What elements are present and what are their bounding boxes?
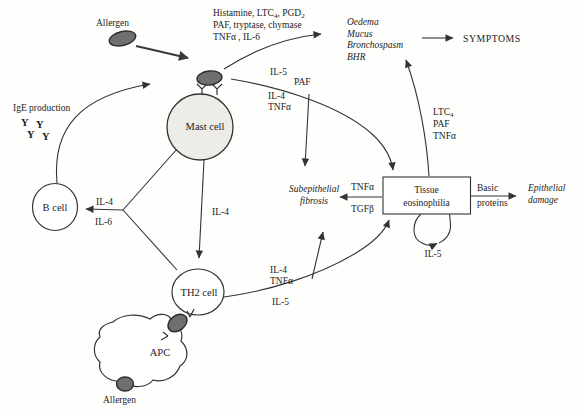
tissue-box-label-line2: eosinophilia	[403, 198, 450, 208]
th2-il5-label: IL-5	[272, 297, 289, 307]
bcell-il4-label: IL-4	[96, 197, 113, 207]
mast-eos-paf-label: PAF	[294, 77, 311, 87]
tissue-eosinophilia-box	[383, 177, 471, 214]
mast-mediators-line1: Histamine, LTC4, PGD2	[213, 8, 305, 20]
apc-label: APC	[150, 347, 170, 358]
acute-effect-bronchospasm: Bronchospasm	[347, 40, 403, 50]
fibrosis-tnfa-label: TNFα	[351, 182, 374, 192]
fibrosis-label-line1: Subepithelial	[289, 184, 339, 194]
th2-to-eosinophilia-arrow	[224, 220, 389, 297]
ige-production-label: IgE production	[13, 103, 71, 113]
acute-effect-mucus: Mucus	[346, 29, 373, 39]
th2-il4-label: IL-4	[270, 265, 287, 275]
junction-to-bcell-arrow	[86, 209, 123, 210]
acute-effect-oedema: Oedema	[347, 17, 379, 27]
tissue-box-label-line1: Tissue	[414, 185, 438, 195]
mast-branch-to-fibrosis-arrow	[305, 94, 309, 166]
th2-tnfa-label: TNFα	[270, 276, 293, 286]
bcell-to-mastcell-arrow	[56, 84, 150, 183]
basic-proteins-line2: proteins	[477, 198, 508, 208]
ige-antibody-icon: Y	[36, 119, 44, 130]
il5-loop-label: IL-5	[425, 249, 442, 259]
allergen-on-mastcell-icon	[196, 70, 222, 87]
mastcell-to-th2-arrow	[199, 160, 204, 258]
mast-eos-il4-label: IL-4	[268, 91, 285, 101]
junction-to-th2-line	[123, 210, 177, 270]
symptoms-label: SYMPTOMS	[463, 33, 521, 44]
epithelial-damage-line2: damage	[528, 195, 558, 205]
mast-mediators-line3: TNFα , IL-6	[213, 32, 260, 42]
asthma-pathway-diagram: Allergen IgE production Y Y Y Y Mast cel…	[0, 0, 581, 413]
ige-antibody-icon: Y	[21, 117, 29, 128]
eosinophilia-to-bhr-arrow	[406, 60, 429, 176]
mast-mediators-line2: PAF, tryptase, chymase	[213, 20, 302, 30]
allergen-particle-icon	[108, 28, 138, 48]
mast-th2-il4-label: IL-4	[212, 207, 229, 217]
mast-cell-label: Mast cell	[186, 121, 225, 132]
acute-effect-bhr: BHR	[347, 52, 366, 62]
epithelial-damage-line1: Epithelial	[527, 183, 566, 193]
basic-proteins-line1: Basic	[477, 183, 498, 193]
fibrosis-label-line2: fibrosis	[300, 196, 328, 206]
ige-antibody-icon: Y	[27, 129, 35, 140]
mastcell-to-junction-line	[123, 149, 177, 210]
b-cell-label: B cell	[43, 202, 68, 213]
fibrosis-tgfb-label: TGFβ	[351, 204, 374, 214]
mast-eos-il5-label: IL-5	[270, 67, 287, 77]
il5-autocrine-loop-arrow	[414, 214, 437, 245]
eos-up-paf-label: PAF	[433, 119, 450, 129]
allergen-to-mastcell-arrow	[136, 46, 188, 58]
mastcell-to-eosinophilia-arrow	[231, 79, 393, 170]
eos-up-tnfa-label: TNFα	[433, 131, 456, 141]
eos-up-ltc4-label: LTC4	[433, 107, 454, 119]
allergen-bottom-label: Allergen	[103, 395, 136, 405]
figure-canvas: Allergen IgE production Y Y Y Y Mast cel…	[0, 0, 581, 413]
ige-antibody-icon: Y	[42, 131, 50, 142]
bcell-il6-label: IL-6	[95, 217, 112, 227]
il5-autocrine-loop-return	[439, 214, 451, 243]
allergen-particle-bottom-icon	[117, 377, 134, 391]
mast-eos-tnfa-label: TNFα	[268, 102, 291, 112]
th2-cell-label: TH2 cell	[180, 287, 217, 298]
allergen-top-label: Allergen	[96, 18, 129, 28]
